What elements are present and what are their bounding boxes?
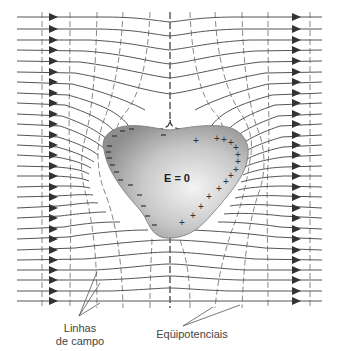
svg-text:+: + [216, 183, 222, 194]
field-lines-label: Linhas de campo [50, 322, 110, 348]
svg-text:+: + [214, 133, 220, 144]
field-lines-label-line2: de campo [50, 335, 110, 348]
svg-text:+: + [193, 135, 199, 146]
svg-text:+: + [190, 210, 196, 221]
left-arrow-column [49, 13, 58, 305]
equipotentials-label: Eqüipotenciais [142, 328, 242, 341]
conductor-label: E = 0 [164, 172, 190, 184]
svg-text:+: + [233, 164, 239, 175]
svg-text:+: + [179, 217, 185, 228]
svg-text:+: + [221, 134, 227, 145]
svg-text:+: + [228, 170, 234, 181]
svg-text:+: + [198, 201, 204, 212]
right-arrow-column [292, 13, 301, 305]
svg-text:+: + [206, 191, 212, 202]
field-lines-label-line1: Linhas [50, 322, 110, 335]
svg-text:+: + [223, 176, 229, 187]
